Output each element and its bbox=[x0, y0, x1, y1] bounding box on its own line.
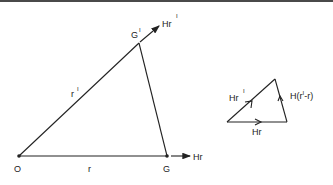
label-vt-diff: H(rI-r) bbox=[290, 90, 313, 101]
label-r-prime-mark: I bbox=[77, 86, 79, 92]
label-vt-hr-prime: Hr bbox=[229, 93, 239, 103]
label-hr-prime-mark: I bbox=[176, 13, 178, 19]
diagram-canvas: O r G Hr G I Hr I r I Hr Hr I H(rI-r) bbox=[0, 0, 333, 185]
vector-hr-prime-arrow bbox=[140, 26, 159, 42]
point-o bbox=[17, 154, 21, 158]
point-g bbox=[165, 154, 169, 158]
vt-side-diff bbox=[275, 79, 287, 122]
label-g-prime: G bbox=[131, 30, 138, 40]
label-o: O bbox=[14, 164, 21, 174]
label-hr-prime: Hr bbox=[162, 19, 172, 29]
side-g-gprime bbox=[139, 43, 167, 156]
label-g: G bbox=[163, 164, 170, 174]
label-vt-hr-prime-mark: I bbox=[243, 88, 245, 94]
label-r: r bbox=[88, 164, 91, 174]
label-hr: Hr bbox=[193, 152, 203, 162]
label-g-prime-mark: I bbox=[139, 27, 141, 33]
side-r-prime bbox=[19, 43, 139, 156]
label-vt-hr: Hr bbox=[252, 127, 262, 137]
label-r-prime: r bbox=[71, 89, 74, 99]
